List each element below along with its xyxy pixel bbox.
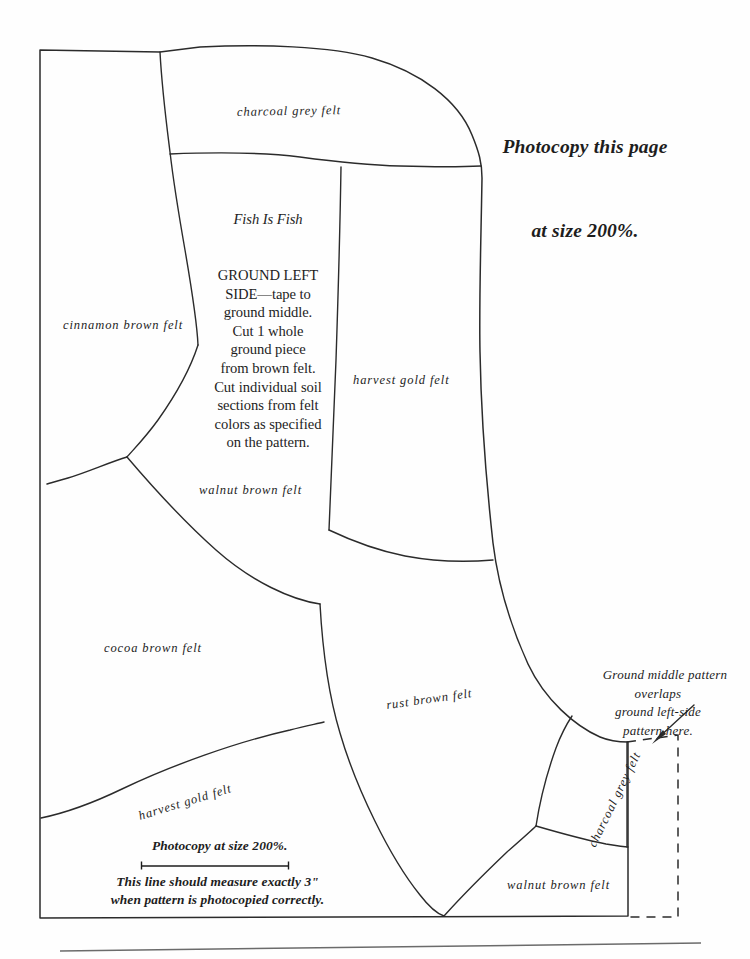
seam-cocoa-rust [320, 604, 444, 916]
seam-charcoal-side-left [536, 716, 572, 826]
headline: Photocopy this page at size 200%. [480, 76, 690, 302]
seam-charcoal-bottom [170, 153, 481, 167]
seam-walnut-top [536, 826, 628, 847]
felt-label-walnut-brown-bottom: walnut brown felt [507, 878, 610, 893]
instruction-title: Fish Is Fish [193, 210, 343, 229]
seam-cinnamon-lower [127, 345, 198, 457]
seam-yjunction-left [47, 457, 127, 484]
measure-note-bottom: This line should measure exactly 3" when… [95, 873, 340, 909]
footer-rule [60, 943, 701, 951]
pattern-page: Photocopy this page at size 200%. Fish I… [0, 0, 750, 959]
overlap-callout: Ground middle pattern overlaps ground le… [588, 648, 728, 759]
seam-harvestgold-lower [329, 530, 493, 561]
headline-line-1: Photocopy this page [480, 133, 690, 161]
felt-label-walnut-brown-mid: walnut brown felt [199, 483, 302, 498]
felt-label-harvest-gold-right: harvest gold felt [353, 373, 450, 388]
felt-label-charcoal-grey-top: charcoal grey felt [237, 103, 341, 120]
felt-label-cocoa-brown: cocoa brown felt [104, 641, 202, 656]
overlap-callout-text: Ground middle pattern overlaps ground le… [603, 667, 728, 737]
instruction-block: Fish Is Fish GROUND LEFT SIDE—tape to gr… [193, 173, 343, 489]
headline-line-2: at size 200%. [480, 217, 690, 245]
felt-label-cinnamon-brown: cinnamon brown felt [63, 318, 183, 333]
measure-note-top: Photocopy at size 200%. [152, 838, 287, 854]
seam-rust-walnut [444, 826, 536, 916]
instruction-body: GROUND LEFT SIDE—tape to ground middle. … [193, 266, 343, 452]
three-inch-reference-line [141, 862, 289, 870]
